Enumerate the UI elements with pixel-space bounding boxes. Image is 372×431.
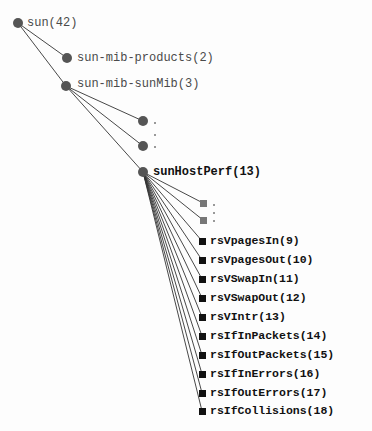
node-sun-mib-products[interactable]	[62, 53, 72, 63]
leaf-label[interactable]: rsIfOutErrors(17)	[210, 386, 327, 400]
leaf-square-icon[interactable]	[199, 257, 206, 264]
leaf-label[interactable]: rsVIntr(13)	[210, 310, 286, 324]
leaf-square-icon[interactable]	[199, 333, 206, 340]
node-sun[interactable]	[13, 18, 23, 28]
leaf-label[interactable]: rsVpagesOut(10)	[210, 253, 314, 267]
node-collapsed-square-last[interactable]	[200, 217, 207, 224]
label-sun-mib-products[interactable]: sun-mib-products(2)	[77, 51, 214, 65]
leaf-label[interactable]: rsVSwapIn(11)	[210, 272, 300, 286]
label-sunHostPerf[interactable]: sunHostPerf(13)	[153, 165, 261, 179]
node-sunHostPerf[interactable]	[138, 167, 148, 177]
ellipsis-dot	[154, 134, 156, 136]
mib-tree-diagram: sun(42) sun-mib-products(2) sun-mib-sunM…	[0, 0, 372, 431]
leaf-label[interactable]: rsIfInErrors(16)	[210, 367, 320, 381]
leaf-label[interactable]: rsIfInPackets(14)	[210, 329, 327, 343]
leaf-label[interactable]: rsIfCollisions(18)	[210, 404, 334, 418]
node-collapsed-last[interactable]	[138, 141, 148, 151]
leaf-square-icon[interactable]	[199, 408, 206, 415]
label-sun-mib-sunMib[interactable]: sun-mib-sunMib(3)	[77, 77, 199, 91]
label-sun[interactable]: sun(42)	[27, 16, 77, 30]
leaf-square-icon[interactable]	[199, 371, 206, 378]
leaf-square-icon[interactable]	[199, 295, 206, 302]
ellipsis-dot	[213, 212, 215, 214]
leaf-square-icon[interactable]	[199, 314, 206, 321]
ellipsis-dot	[213, 220, 215, 222]
leaf-square-icon[interactable]	[199, 238, 206, 245]
leaf-square-icon[interactable]	[199, 276, 206, 283]
ellipsis-dot	[154, 122, 156, 124]
ellipsis-dot	[213, 204, 215, 206]
leaf-square-icon[interactable]	[199, 352, 206, 359]
leaf-square-icon[interactable]	[199, 390, 206, 397]
leaf-label[interactable]: rsVSwapOut(12)	[210, 291, 307, 305]
node-sun-mib-sunMib[interactable]	[61, 81, 71, 91]
leaf-label[interactable]: rsIfOutPackets(15)	[210, 348, 334, 362]
node-collapsed-first[interactable]	[138, 116, 148, 126]
leaf-label[interactable]: rsVpagesIn(9)	[210, 234, 300, 248]
node-collapsed-square-first[interactable]	[200, 200, 207, 207]
ellipsis-dot	[154, 146, 156, 148]
